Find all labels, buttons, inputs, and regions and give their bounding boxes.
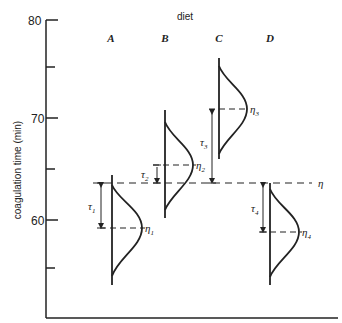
y-tick-60: 60 bbox=[31, 214, 45, 228]
distribution-d bbox=[270, 183, 299, 285]
y-tick-70: 70 bbox=[31, 112, 45, 126]
mean-label-a: η1 bbox=[145, 222, 154, 237]
effect-label-a: τ1 bbox=[88, 200, 95, 215]
effect-arrow-c bbox=[208, 112, 216, 183]
mean-label-d: η4 bbox=[302, 226, 311, 241]
diagram-title: diet bbox=[177, 11, 193, 22]
group-label-d: D bbox=[265, 32, 274, 44]
mean-label-b: η2 bbox=[196, 159, 205, 174]
distribution-b bbox=[165, 110, 193, 218]
y-axis bbox=[46, 20, 58, 318]
group-label-c: C bbox=[215, 32, 223, 44]
effect-label-c: τ3 bbox=[200, 136, 208, 151]
diagram-canvas: 80 70 60 coagulation time (min) diet A B… bbox=[0, 0, 342, 323]
mean-label-c: η3 bbox=[250, 103, 259, 118]
effect-arrow-d bbox=[259, 185, 267, 232]
effect-label-b: τ2 bbox=[141, 168, 149, 183]
y-axis-title: coagulation time (min) bbox=[12, 121, 23, 219]
effect-arrow-b bbox=[153, 165, 161, 183]
effect-arrow-a bbox=[97, 183, 105, 228]
effect-label-d: τ4 bbox=[251, 202, 259, 217]
grand-mean-label: η bbox=[318, 177, 323, 189]
distribution-a bbox=[112, 175, 142, 285]
group-label-b: B bbox=[160, 32, 168, 44]
group-label-a: A bbox=[106, 32, 114, 44]
y-tick-80: 80 bbox=[28, 14, 42, 28]
